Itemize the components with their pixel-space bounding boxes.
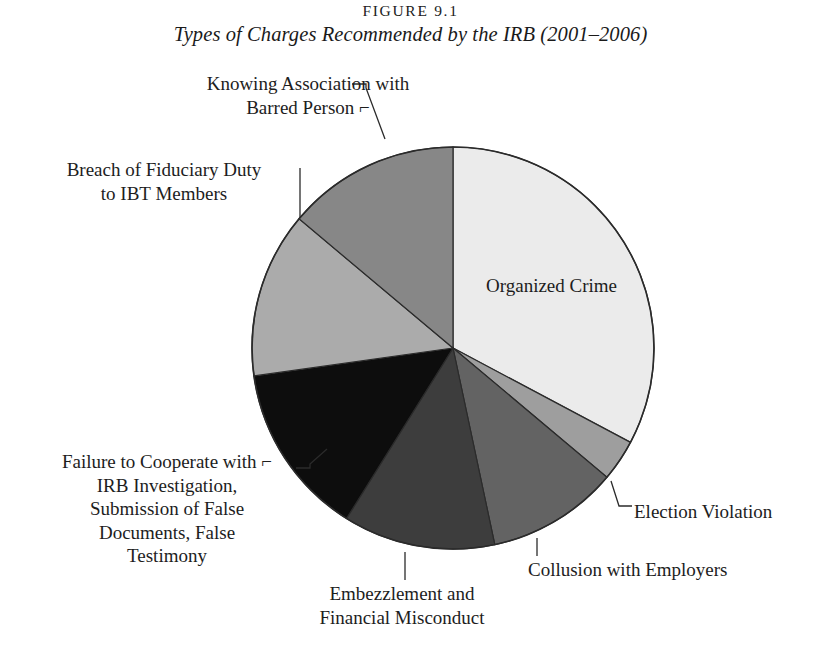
slice-label-collusion-with-employers: Collusion with Employers xyxy=(528,558,728,582)
leader-line-election-violation xyxy=(611,481,632,506)
slice-label-breach-fiduciary-duty: Breach of Fiduciary Duty to IBT Members xyxy=(26,158,302,205)
slice-label-election-violation: Election Violation xyxy=(634,500,772,524)
slice-label-organized-crime: Organized Crime xyxy=(486,274,617,298)
pie-chart: Organized Crime Knowing Association with… xyxy=(0,0,821,653)
slice-label-knowing-association: Knowing Association with Barred Person ⌐ xyxy=(166,72,450,119)
slice-label-embezzlement: Embezzlement and Financial Misconduct xyxy=(258,582,546,629)
slice-label-failure-to-cooperate: Failure to Cooperate with ⌐ IRB Investig… xyxy=(12,450,322,568)
